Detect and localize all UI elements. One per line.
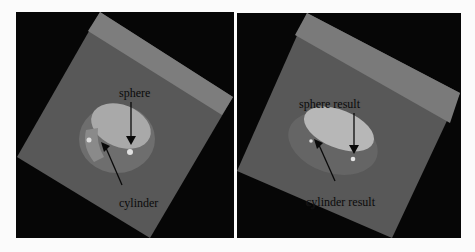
highlight-2 (351, 157, 356, 162)
render-panel-left: sphere cylinder (16, 12, 234, 238)
highlight-1 (87, 138, 92, 143)
highlight-1 (309, 139, 313, 143)
label-sphere: sphere (119, 87, 150, 99)
highlight-2 (127, 149, 133, 155)
label-cylinder: cylinder (119, 197, 158, 209)
label-cylinder-result: cylinder result (306, 196, 375, 208)
label-sphere-result: sphere result (299, 98, 360, 110)
render-panel-right: sphere result cylinder result (237, 13, 461, 238)
